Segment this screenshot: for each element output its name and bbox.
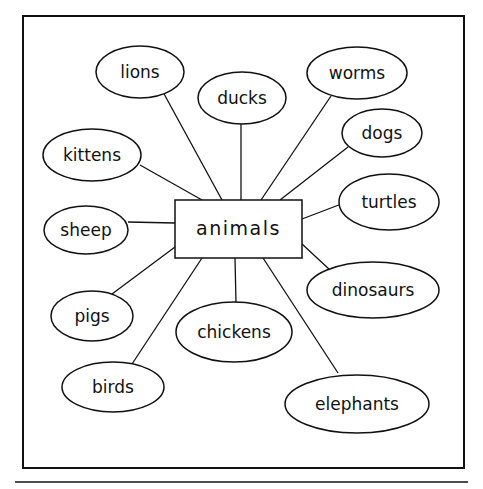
node-label: pigs xyxy=(74,306,109,326)
node-worms: worms xyxy=(307,47,407,99)
connector-dogs xyxy=(280,147,348,200)
node-label: worms xyxy=(329,63,386,83)
node-label: ducks xyxy=(217,88,267,108)
node-turtles: turtles xyxy=(339,174,439,230)
connector-turtles xyxy=(302,203,344,219)
center-label: animals xyxy=(196,217,281,239)
connector-chickens xyxy=(235,258,236,303)
node-label: sheep xyxy=(60,220,111,240)
node-elephants: elephants xyxy=(285,375,429,433)
connector-pigs xyxy=(112,247,175,294)
node-label: birds xyxy=(92,377,134,397)
node-lions: lions xyxy=(96,46,184,98)
node-label: elephants xyxy=(315,394,399,414)
connector-sheep xyxy=(128,222,175,223)
node-label: turtles xyxy=(361,192,416,212)
node-kittens: kittens xyxy=(43,129,141,181)
node-label: dogs xyxy=(362,123,403,143)
node-sheep: sheep xyxy=(44,206,128,254)
node-ducks: ducks xyxy=(198,72,286,124)
node-pigs: pigs xyxy=(51,291,133,341)
connector-dinosaurs xyxy=(302,244,330,270)
node-label: kittens xyxy=(63,145,121,165)
center-node: animals xyxy=(175,200,302,258)
node-dinosaurs: dinosaurs xyxy=(307,262,439,318)
node-label: chickens xyxy=(197,322,271,342)
node-dogs: dogs xyxy=(342,109,422,157)
node-chickens: chickens xyxy=(176,302,292,362)
node-birds: birds xyxy=(62,362,164,412)
node-label: lions xyxy=(120,62,160,82)
node-label: dinosaurs xyxy=(332,280,415,300)
concept-web-diagram: animals lionsduckswormsdogskittensturtle… xyxy=(0,0,483,489)
connector-kittens xyxy=(140,165,202,200)
